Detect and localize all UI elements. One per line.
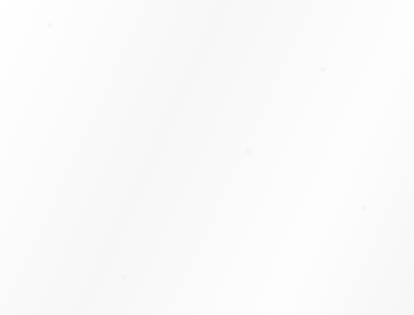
x-tick-mark-1 [104,275,105,279]
bar-2004-wheat-side [174,126,182,275]
legend-label-corn: Bushels of corn [328,142,390,152]
legend-label-wheat: Bushels of wheat [328,155,397,165]
y-axis-title: Bushels [7,100,17,160]
bar-2005-corn-side [219,35,227,128]
bar-2003-wheat-front [107,121,129,275]
bar-2004-corn-side [174,49,182,138]
x-tick-mark-3 [194,275,195,279]
bar-group-2002 [62,60,92,275]
bar-2003-corn-side [129,35,137,121]
y-tick-mark-0 [52,275,57,276]
y-tick-mark-150 [52,166,57,167]
x-tick-mark-4 [239,275,240,279]
y-tick-mark-100 [52,202,57,203]
bar-2005-corn-front [197,47,219,128]
bar-2005-wheat-side [219,116,227,275]
stacked-bar-chart-figure: 350 300 250 200 150 100 50 0 Bushels 200… [0,0,414,315]
x-tick-mark-2 [149,275,150,279]
x-tick-mark-5 [284,275,285,279]
x-tick-label-2005: 2005 [187,280,227,290]
bar-2004-wheat-front [152,138,174,275]
y-axis-tick-marks [52,0,58,315]
x-tick-label-2002: 2002 [52,280,92,290]
legend-swatch-wheat-icon [315,155,324,164]
y-tick-label-0: 0 [14,270,44,280]
legend-swatch-corn-icon [315,142,324,151]
y-tick-label-250: 250 [14,89,44,99]
y-tick-mark-350 [52,22,57,23]
bar-2006-corn-side [264,20,272,114]
y-tick-mark-50 [52,239,57,240]
bar-group-2003 [107,35,137,275]
bar-2004-corn-front [152,61,174,138]
x-tick-label-2003: 2003 [97,280,137,290]
bar-group-2006 [242,20,272,275]
bar-2002-wheat-side [84,116,92,275]
bar-2003-corn-front [107,47,129,121]
y-tick-label-150: 150 [14,161,44,171]
chart-legend: Bushels of corn Bushels of wheat [311,136,402,170]
legend-entry-corn: Bushels of corn [315,140,397,153]
legend-entry-wheat: Bushels of wheat [315,153,397,166]
bar-2005-wheat-front [197,128,219,275]
y-tick-label-300: 300 [14,53,44,63]
y-tick-label-100: 100 [14,197,44,207]
y-tick-mark-300 [52,58,57,59]
y-axis-tick-labels: 350 300 250 200 150 100 50 0 [14,0,44,315]
y-tick-label-50: 50 [14,234,44,244]
y-tick-label-350: 350 [14,17,44,27]
bar-2003-wheat-side [129,109,137,275]
bar-group-2005 [197,35,227,275]
bar-2002-wheat-front [62,128,84,275]
x-tick-label-2004: 2004 [142,280,182,290]
x-tick-label-2006: 2006 [232,280,272,290]
bar-2006-wheat-side [264,102,272,275]
bar-2006-corn-front [242,32,264,114]
x-tick-mark-0 [59,275,60,279]
x-axis-title: Year [120,297,230,307]
bar-2002-corn-front [62,72,84,128]
bar-group-2004 [152,49,182,275]
y-tick-label-200: 200 [14,125,44,135]
bar-2006-wheat-front [242,114,264,275]
y-tick-mark-200 [52,130,57,131]
y-tick-mark-250 [52,94,57,95]
